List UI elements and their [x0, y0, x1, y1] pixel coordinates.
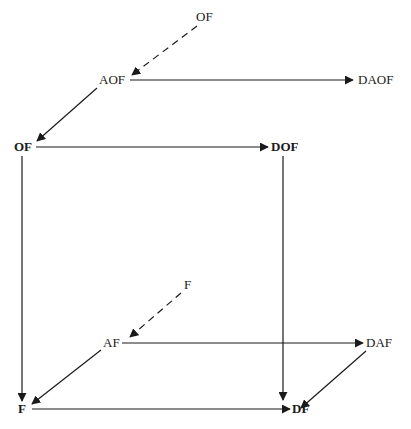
node-f-source: F [184, 278, 191, 292]
edge-f-source-to-af [130, 293, 181, 337]
node-of: OF [14, 140, 32, 154]
edge-af-to-f [32, 350, 101, 404]
edge-daf-to-df [301, 351, 366, 408]
edge-aof-to-of [37, 88, 97, 141]
node-dof: DOF [271, 140, 298, 154]
node-f: F [18, 402, 26, 416]
node-daf: DAF [366, 336, 392, 350]
diagram-canvas [0, 0, 411, 429]
node-daof: DAOF [358, 73, 393, 87]
edge-of-source-to-aof [132, 26, 197, 75]
node-aof: AOF [99, 73, 125, 87]
node-of-source: OF [196, 10, 213, 24]
node-df: DF [292, 402, 309, 416]
node-af: AF [103, 336, 120, 350]
